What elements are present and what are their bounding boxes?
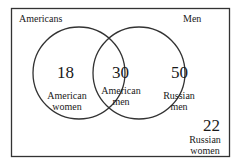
set-label-americans: Americans (19, 14, 62, 24)
region-value-american-men: 30 (112, 64, 129, 81)
region-label-american-women: American women (44, 90, 90, 112)
region-label-russian-women: Russian women (186, 134, 224, 156)
region-label-russian-men: Russian men (156, 90, 202, 112)
region-value-russian-women: 22 (203, 117, 220, 134)
region-label-american-men: American men (98, 85, 144, 107)
set-label-men: Men (183, 14, 201, 24)
region-value-american-women: 18 (57, 64, 74, 81)
region-value-russian-men: 50 (171, 64, 188, 81)
